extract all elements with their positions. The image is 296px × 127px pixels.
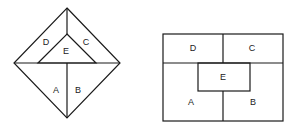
diamond-label-a: A [53, 85, 59, 95]
diamond-label-e: E [63, 46, 69, 56]
rectangle-figure: D C E A B [163, 34, 283, 121]
diagram-canvas: D C E A B D C E A B [0, 0, 296, 127]
diamond-label-d: D [43, 37, 50, 47]
rectangle-label-c: C [249, 43, 256, 53]
rectangle-label-b: B [250, 97, 256, 107]
rectangle-label-e: E [220, 72, 226, 82]
rectangle-label-d: D [190, 43, 197, 53]
diamond-figure: D C E A B [14, 8, 120, 118]
diamond-label-b: B [75, 85, 81, 95]
rectangle-label-a: A [188, 97, 194, 107]
diamond-label-c: C [83, 37, 90, 47]
